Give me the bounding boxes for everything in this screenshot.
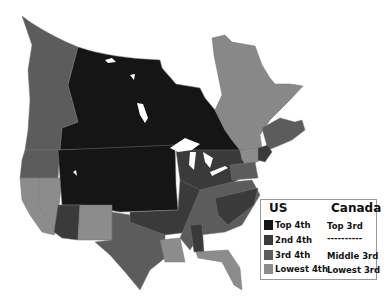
region-new-mexico [78, 205, 112, 240]
legend-swatch [264, 235, 273, 245]
legend-swatch [264, 220, 273, 230]
region-florida [196, 250, 242, 290]
legend-us-label: Top 4th [275, 220, 311, 230]
legend-us-label: Lowest 4th [275, 264, 328, 274]
legend-canada-label: Top 3rd [327, 221, 363, 231]
legend-us-label: 2nd 4th [275, 235, 312, 245]
region-mountain-plains [58, 145, 178, 212]
legend-canada-heading: Canada [331, 201, 381, 215]
legend-canada-label: ---------- [327, 233, 362, 243]
legend-row: 3rd 4th [264, 249, 310, 261]
legend-row: 2nd 4th [264, 234, 312, 246]
region-alabama [190, 224, 204, 252]
region-pennsylvania [230, 162, 258, 180]
legend-row: Lowest 4th [264, 263, 328, 275]
legend-swatch [264, 250, 273, 260]
region-arizona [54, 205, 80, 240]
legend-swatch [264, 264, 273, 274]
region-maritimes [262, 118, 305, 150]
legend-us-label: 3rd 4th [275, 250, 310, 260]
region-washington-oregon [20, 150, 60, 178]
map-legend: US Canada Top 4th Top 3rd 2nd 4th ------… [260, 199, 377, 280]
legend-row: Top 4th [264, 219, 311, 231]
legend-canada-label: Lowest 3rd [327, 265, 380, 275]
legend-us-heading: US [269, 201, 287, 215]
legend-canada-label: Middle 3rd [327, 251, 378, 261]
